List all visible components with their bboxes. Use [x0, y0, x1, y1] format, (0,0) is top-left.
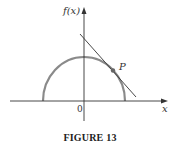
y-axis-arrow-icon [82, 7, 87, 14]
figure-caption: FIGURE 13 [63, 132, 116, 143]
point-p-label: P [118, 61, 126, 72]
x-axis-label: x [162, 103, 168, 114]
tangent-line [80, 34, 136, 97]
y-axis-label: f(x) [62, 5, 80, 16]
figure-13-diagram: f(x) x 0 P FIGURE 13 [0, 0, 182, 151]
origin-label: 0 [77, 104, 83, 114]
point-p [111, 68, 115, 72]
